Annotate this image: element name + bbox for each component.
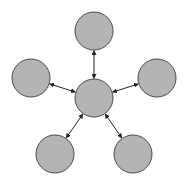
node-center — [75, 79, 113, 117]
node-left — [12, 59, 50, 97]
node-right — [138, 59, 176, 97]
node-top — [75, 12, 113, 50]
hub-spoke-diagram — [0, 0, 185, 186]
node-bottom-right — [114, 135, 152, 173]
node-bottom-left — [36, 135, 74, 173]
